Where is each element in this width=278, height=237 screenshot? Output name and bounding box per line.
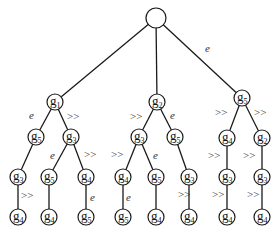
node-label-subscript: 3 — [229, 176, 233, 185]
edge-label-e: e — [50, 149, 55, 161]
tree-node: g5 — [28, 128, 44, 145]
node-label-subscript: 5 — [177, 136, 181, 145]
node-label-subscript: 3 — [191, 176, 195, 185]
edge-label-precedence: >> — [208, 149, 220, 161]
tree-edge — [156, 18, 157, 102]
tree-node: g4 — [41, 208, 57, 225]
edge-label-precedence: >> — [67, 110, 79, 122]
tree-node: g4 — [254, 208, 270, 225]
edge-label-e: e — [29, 109, 34, 121]
edge-label-e: e — [90, 191, 95, 203]
tree-node: g4 — [219, 208, 235, 225]
node-label-subscript: 5 — [125, 216, 129, 225]
node-label-subscript: 4 — [125, 176, 129, 185]
node-label-subscript: 4 — [191, 216, 195, 225]
tree-node: g3 — [63, 128, 79, 145]
node-label-subscript: 4 — [20, 216, 24, 225]
node-label-subscript: 4 — [229, 216, 233, 225]
node-label-subscript: 5 — [244, 97, 248, 106]
edge-label-e: e — [205, 42, 210, 54]
node-label-subscript: 3 — [20, 176, 24, 185]
edge-label-e: e — [153, 149, 158, 161]
tree-diagram: ee>>>>e>>>>e>>>>e>>>>>>ee>>>>>> g1g2g5g5… — [0, 0, 278, 237]
edge-label-precedence: >> — [212, 188, 224, 200]
node-label-subscript: 5 — [51, 176, 55, 185]
edge-label-precedence: >> — [111, 148, 123, 160]
node-label-subscript: 2 — [264, 137, 268, 146]
tree-edge — [55, 18, 156, 102]
node-label-subscript: 1 — [57, 101, 61, 110]
edge-label-precedence: >> — [254, 106, 266, 118]
node-label-subscript: 4 — [158, 216, 162, 225]
tree-node: g3 — [131, 128, 147, 145]
node-label-subscript: 2 — [159, 101, 163, 110]
tree-node: g5 — [115, 208, 131, 225]
node-label-subscript: 4 — [264, 216, 268, 225]
tree-node: g2 — [149, 93, 165, 110]
tree-node: g3 — [181, 168, 197, 185]
tree-node: g4 — [181, 208, 197, 225]
edge-label-precedence: >> — [21, 189, 33, 201]
tree-node: g5 — [41, 168, 57, 185]
node-label-subscript: 5 — [38, 136, 42, 145]
tree-node: g3 — [254, 168, 270, 185]
edge-label-precedence: >> — [178, 188, 190, 200]
edge-label-e: e — [170, 109, 175, 121]
tree-edge — [156, 18, 242, 98]
tree-node: g4 — [10, 208, 26, 225]
node-label-subscript: 4 — [229, 137, 233, 146]
node-label-subscript: 3 — [264, 176, 268, 185]
edge-label-precedence: >> — [215, 106, 227, 118]
tree-node: g5 — [167, 128, 183, 145]
tree-node: g5 — [234, 89, 250, 106]
edge-label-e: e — [126, 191, 131, 203]
edge-label-precedence: >> — [130, 110, 142, 122]
tree-node: g1 — [47, 93, 63, 110]
tree-node: g4 — [148, 208, 164, 225]
tree-node: g4 — [219, 129, 235, 146]
node-label-subscript: 3 — [73, 136, 77, 145]
tree-node: g4 — [115, 168, 131, 185]
tree-node: g4 — [78, 168, 94, 185]
tree-node: g5 — [148, 168, 164, 185]
node-label-subscript: 3 — [141, 136, 145, 145]
node-label-subscript: 4 — [51, 216, 55, 225]
node-label-subscript: 5 — [88, 216, 92, 225]
edge-label-precedence: >> — [243, 149, 255, 161]
tree-node: g5 — [78, 208, 94, 225]
tree-node: g3 — [10, 168, 26, 185]
edge-label-precedence: >> — [247, 188, 259, 200]
node-label-subscript: 5 — [158, 176, 162, 185]
edge-label-precedence: >> — [84, 148, 96, 160]
root-node — [146, 8, 166, 28]
tree-node: g2 — [254, 129, 270, 146]
node-label-subscript: 4 — [88, 176, 92, 185]
tree-node: g3 — [219, 168, 235, 185]
